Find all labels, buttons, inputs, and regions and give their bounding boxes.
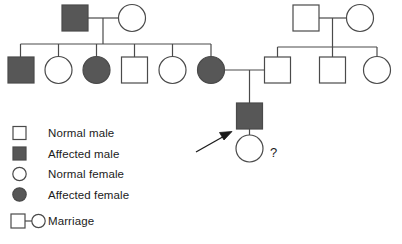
gi-left-normal-female-symbol[interactable] [119, 5, 146, 32]
gii-2-normal-female-symbol[interactable] [45, 57, 72, 84]
legend-label-marriage: Marriage [48, 215, 94, 227]
legend-label-normal-female: Normal female [48, 168, 124, 180]
proband-arrow-head [220, 132, 233, 141]
unknown-status-question-mark: ? [270, 146, 277, 159]
generation-ii-right-sibship-bar [278, 47, 378, 57]
pedigree-chart: Normal male Affected male Normal female … [0, 0, 402, 244]
gi-right-normal-male-symbol[interactable] [293, 5, 319, 31]
gii-3-affected-female-symbol[interactable] [83, 57, 110, 84]
legend-normal-female-icon [13, 167, 26, 180]
generation-iv [236, 135, 263, 162]
legend-marriage-female-icon [32, 214, 45, 227]
generation-i-right-couple [293, 5, 374, 48]
legend-symbols [11, 127, 45, 229]
gii-4-normal-male-symbol[interactable] [122, 57, 148, 83]
giii-1-affected-male-symbol[interactable] [237, 103, 263, 129]
legend-marriage-male-icon [11, 214, 25, 228]
generation-ii-right-siblings [265, 57, 391, 84]
generation-ii-left-sibship-bar [21, 44, 212, 57]
gii-1-affected-male-symbol[interactable] [8, 57, 34, 83]
gii-6-affected-female-symbol[interactable] [198, 57, 225, 84]
generation-i-left-couple [62, 5, 146, 45]
generation-iii-proband [237, 103, 263, 135]
proband-arrow [196, 132, 232, 153]
gii-5-normal-female-symbol[interactable] [159, 57, 186, 84]
gii-8-normal-male-symbol[interactable] [320, 57, 346, 83]
legend-normal-male-icon [13, 127, 26, 140]
gii-9-normal-female-symbol[interactable] [364, 57, 391, 84]
legend-label-affected-male: Affected male [48, 148, 119, 160]
gi-right-normal-female-symbol[interactable] [347, 5, 374, 32]
generation-ii-left-siblings [8, 57, 225, 84]
gii-7-normal-male-symbol[interactable] [265, 57, 291, 83]
gi-left-affected-male-symbol[interactable] [62, 5, 88, 31]
legend-affected-male-icon [13, 147, 26, 160]
giv-1-normal-female-symbol[interactable] [236, 135, 263, 162]
pedigree-diagram-canvas [0, 0, 402, 244]
legend-label-normal-male: Normal male [48, 127, 114, 139]
legend-affected-female-icon [13, 188, 26, 201]
center-marriage-union [225, 70, 265, 103]
legend-label-affected-female: Affected female [48, 189, 129, 201]
